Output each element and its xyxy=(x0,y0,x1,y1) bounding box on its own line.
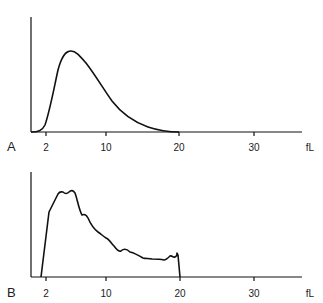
panel-b: B 2 10 20 30 fL xyxy=(7,172,315,300)
tick-label-b-20: 20 xyxy=(174,288,186,299)
unit-label-b: fL xyxy=(306,288,315,299)
histogram-figure: A 2 10 20 30 fL B 2 10 20 30 fL xyxy=(0,0,323,303)
tick-label-a-2: 2 xyxy=(43,142,49,153)
tick-label-a-20: 20 xyxy=(173,142,185,153)
distribution-curve-a xyxy=(31,51,179,132)
distribution-curve-b xyxy=(41,191,180,277)
panel-a: A 2 10 20 30 fL xyxy=(7,17,315,154)
panel-label-a: A xyxy=(7,139,16,154)
tick-label-b-2: 2 xyxy=(43,288,49,299)
tick-label-b-10: 10 xyxy=(100,288,112,299)
unit-label-a: fL xyxy=(306,142,315,153)
tick-label-a-10: 10 xyxy=(100,142,112,153)
panel-label-b: B xyxy=(7,285,16,300)
tick-label-b-30: 30 xyxy=(248,288,260,299)
tick-label-a-30: 30 xyxy=(248,142,260,153)
